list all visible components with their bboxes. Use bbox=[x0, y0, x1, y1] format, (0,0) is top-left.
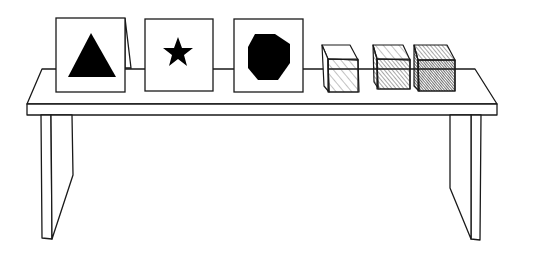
card-star bbox=[145, 19, 213, 91]
cube-medium bbox=[373, 45, 410, 89]
table-leg-left-side bbox=[51, 115, 73, 239]
cube-dark bbox=[414, 45, 455, 91]
card-octagon bbox=[234, 19, 303, 92]
card-triangle bbox=[56, 18, 131, 92]
table-leg-right-side bbox=[450, 115, 471, 239]
table-leg-left bbox=[41, 115, 52, 239]
cube-light bbox=[322, 45, 359, 92]
table-edge bbox=[27, 104, 497, 115]
table bbox=[27, 69, 497, 240]
table-scene bbox=[0, 0, 543, 253]
table-leg-right bbox=[471, 115, 481, 240]
